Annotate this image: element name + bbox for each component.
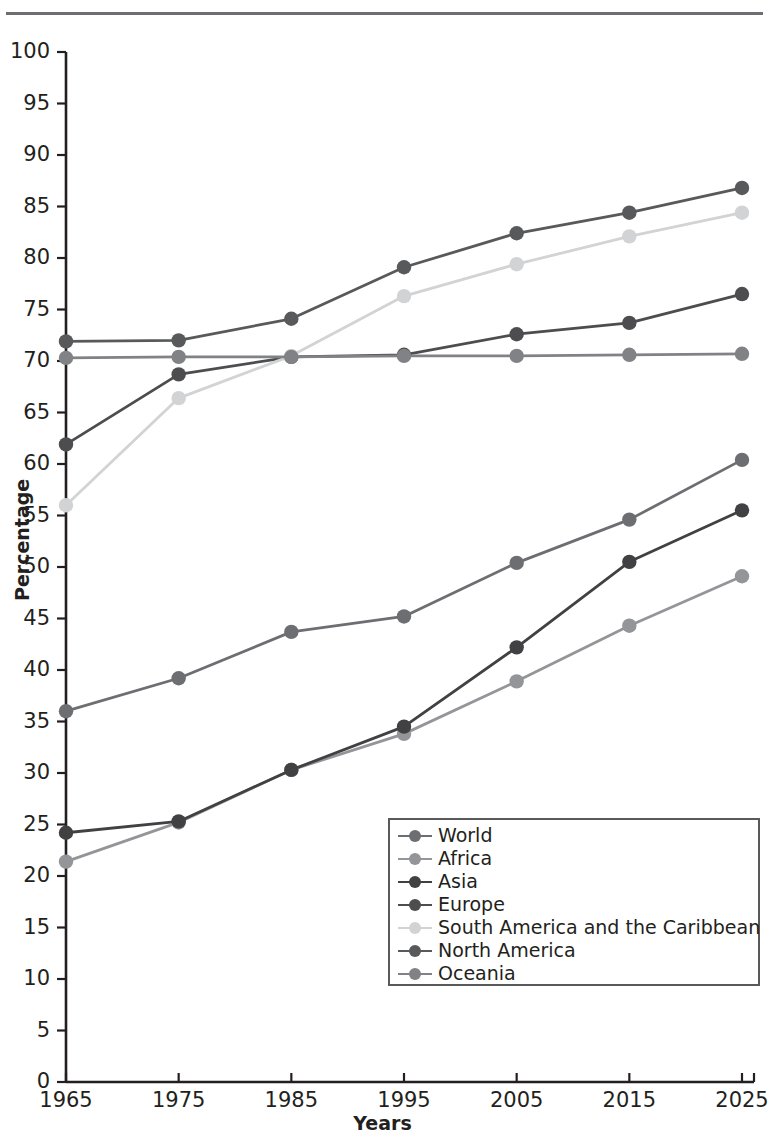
data-point-marker (59, 351, 73, 365)
legend-marker-icon (398, 967, 432, 981)
data-point-marker (59, 437, 73, 451)
data-point-marker (509, 674, 523, 688)
data-point-marker (59, 704, 73, 718)
y-tick-label: 20 (0, 865, 50, 886)
data-point-marker (171, 350, 185, 364)
x-axis-title: Years (0, 1112, 765, 1134)
data-point-marker (735, 347, 749, 361)
y-tick-label: 5 (0, 1020, 50, 1041)
x-tick-label: 2015 (574, 1090, 684, 1111)
series-north-america (59, 181, 749, 349)
data-point-marker (735, 569, 749, 583)
y-tick-label: 25 (0, 814, 50, 835)
legend-label: North America (438, 941, 576, 960)
legend-marker-icon (398, 829, 432, 843)
legend-label: Europe (438, 895, 505, 914)
y-tick-label: 95 (0, 93, 50, 114)
data-point-marker (397, 349, 411, 363)
x-tick-label: 1995 (349, 1090, 459, 1111)
data-point-marker (509, 556, 523, 570)
data-point-marker (622, 205, 636, 219)
data-point-marker (622, 555, 636, 569)
data-point-marker (59, 334, 73, 348)
data-point-marker (59, 854, 73, 868)
data-point-marker (284, 625, 298, 639)
data-point-marker (509, 226, 523, 240)
legend-item: South America and the Caribbean (390, 916, 758, 939)
data-point-marker (509, 327, 523, 341)
series-line (66, 460, 742, 711)
y-tick-label: 90 (0, 144, 50, 165)
data-point-marker (735, 181, 749, 195)
legend-label: Oceania (438, 964, 516, 983)
series-line (66, 294, 742, 444)
y-tick-label: 40 (0, 659, 50, 680)
x-tick-label: 1965 (11, 1090, 121, 1111)
data-point-marker (622, 229, 636, 243)
data-point-marker (735, 205, 749, 219)
data-point-marker (509, 349, 523, 363)
data-point-marker (735, 287, 749, 301)
data-point-marker (622, 619, 636, 633)
data-point-marker (397, 260, 411, 274)
legend-item: Asia (390, 870, 758, 893)
y-tick-label: 35 (0, 711, 50, 732)
x-tick-label: 2005 (462, 1090, 572, 1111)
data-point-marker (735, 503, 749, 517)
x-tick-label: 2025 (687, 1090, 772, 1111)
y-tick-label: 10 (0, 968, 50, 989)
y-tick-label: 70 (0, 350, 50, 371)
data-point-marker (171, 367, 185, 381)
data-point-marker (59, 498, 73, 512)
series-asia (59, 503, 749, 840)
chart-legend: WorldAfricaAsiaEuropeSouth America and t… (388, 818, 760, 986)
x-tick-label: 1975 (124, 1090, 234, 1111)
legend-item: North America (390, 939, 758, 962)
data-point-marker (622, 316, 636, 330)
legend-item: Europe (390, 893, 758, 916)
data-point-marker (509, 257, 523, 271)
chart-series-group (59, 181, 749, 869)
legend-marker-icon (398, 875, 432, 889)
data-point-marker (397, 289, 411, 303)
legend-marker-icon (398, 921, 432, 935)
legend-item: Oceania (390, 962, 758, 985)
legend-label: World (438, 826, 492, 845)
legend-marker-icon (398, 898, 432, 912)
data-point-marker (509, 640, 523, 654)
legend-item: Africa (390, 847, 758, 870)
data-point-marker (171, 391, 185, 405)
y-tick-label: 85 (0, 196, 50, 217)
data-point-marker (622, 348, 636, 362)
legend-item: World (390, 824, 758, 847)
y-tick-label: 65 (0, 402, 50, 423)
data-point-marker (171, 671, 185, 685)
legend-label: South America and the Caribbean (438, 918, 760, 937)
series-europe (59, 287, 749, 452)
data-point-marker (284, 312, 298, 326)
data-point-marker (622, 512, 636, 526)
data-point-marker (397, 719, 411, 733)
data-point-marker (284, 763, 298, 777)
legend-marker-icon (398, 944, 432, 958)
y-tick-label: 80 (0, 247, 50, 268)
legend-marker-icon (398, 852, 432, 866)
data-point-marker (397, 609, 411, 623)
y-tick-label: 100 (0, 41, 50, 62)
x-tick-label: 1985 (236, 1090, 346, 1111)
legend-label: Asia (438, 872, 478, 891)
y-axis-title: Percentage (11, 481, 33, 601)
data-point-marker (171, 814, 185, 828)
y-tick-label: 45 (0, 608, 50, 629)
data-point-marker (59, 826, 73, 840)
series-world (59, 453, 749, 719)
y-tick-label: 15 (0, 917, 50, 938)
legend-label: Africa (438, 849, 492, 868)
data-point-marker (171, 333, 185, 347)
data-point-marker (735, 453, 749, 467)
series-oceania (59, 347, 749, 366)
data-point-marker (284, 350, 298, 364)
y-tick-label: 75 (0, 299, 50, 320)
series-line (66, 510, 742, 832)
